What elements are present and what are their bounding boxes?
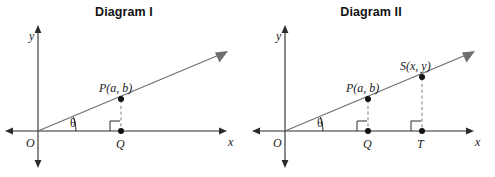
y-axis xyxy=(282,25,289,168)
y-axis-arrow-down xyxy=(35,160,42,168)
point-q-dot xyxy=(365,128,371,134)
point-p-label: P(a, b) xyxy=(345,81,379,95)
diagram-1-canvas: P(a, b) Q O y x θ xyxy=(0,0,248,177)
point-s-dot xyxy=(419,74,425,80)
ray-arrow xyxy=(215,51,228,63)
terminal-ray xyxy=(285,51,475,131)
y-axis-arrow-up xyxy=(35,25,42,33)
x-axis-arrow-right xyxy=(219,128,227,135)
origin-label: O xyxy=(273,136,282,150)
y-axis-label: y xyxy=(275,29,282,43)
point-p-dot xyxy=(365,96,371,102)
x-axis-arrow-left xyxy=(252,128,260,135)
y-axis xyxy=(35,25,42,168)
origin-label: O xyxy=(26,136,35,150)
diagram-panel-2: Diagram II xyxy=(247,0,495,177)
x-axis-arrow-right xyxy=(466,128,474,135)
x-axis-label: x xyxy=(474,135,481,149)
x-axis-arrow-left xyxy=(5,128,13,135)
point-p-label: P(a, b) xyxy=(98,81,132,95)
point-q-label: Q xyxy=(363,137,372,151)
terminal-ray xyxy=(38,51,228,131)
point-s-label: S(x, y) xyxy=(400,59,431,73)
point-q-label: Q xyxy=(116,137,125,151)
diagram-panel-1: Diagram I xyxy=(0,0,248,177)
point-t-label: T xyxy=(417,137,425,151)
y-axis-arrow-up xyxy=(282,25,289,33)
ray-arrow xyxy=(462,51,475,63)
figure-root: Diagram I xyxy=(0,0,495,177)
theta-label: θ xyxy=(70,116,76,130)
theta-label: θ xyxy=(317,116,323,130)
y-axis-label: y xyxy=(28,29,35,43)
diagram-2-canvas: P(a, b) Q S(x, y) T O y x θ xyxy=(247,0,495,177)
point-p-dot xyxy=(118,96,124,102)
x-axis-label: x xyxy=(227,135,234,149)
point-t-dot xyxy=(419,128,425,134)
y-axis-arrow-down xyxy=(282,160,289,168)
point-q-dot xyxy=(118,128,124,134)
